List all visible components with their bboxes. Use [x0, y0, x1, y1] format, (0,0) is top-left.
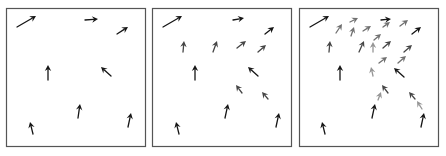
figure — [0, 0, 446, 156]
panel-1 — [7, 9, 146, 147]
panel-3 — [300, 9, 439, 147]
vector-field-figure — [0, 0, 446, 156]
panel-2 — [153, 9, 292, 147]
